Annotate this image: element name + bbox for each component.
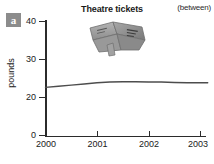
between-annotation: (between) <box>177 3 211 12</box>
y-tick-mark-40 <box>39 21 45 22</box>
chart-figure: a Theatre tickets (between) pounds <box>0 0 214 164</box>
x-tick-mark-2001 <box>97 131 98 137</box>
x-tick-label-2002: 2002 <box>132 139 166 149</box>
y-tick-mark-0 <box>39 135 45 136</box>
x-tick-mark-2000 <box>46 131 47 137</box>
y-tick-mark-20 <box>39 97 45 98</box>
theatre-tickets-clipart <box>87 17 149 59</box>
x-axis-line <box>45 136 206 138</box>
x-tick-mark-2003 <box>200 131 201 137</box>
x-tick-mark-2002 <box>149 131 150 137</box>
x-tick-label-2000: 2000 <box>29 139 63 149</box>
x-tick-label-2003: 2003 <box>181 139 214 149</box>
y-tick-label-40: 40 <box>12 16 36 26</box>
y-axis-line <box>45 20 47 137</box>
y-tick-label-0: 0 <box>12 130 36 140</box>
chart-title: Theatre tickets <box>62 4 162 14</box>
y-tick-mark-30 <box>39 59 45 60</box>
y-tick-label-20: 20 <box>12 92 36 102</box>
x-tick-label-2001: 2001 <box>81 139 115 149</box>
y-tick-label-30: 30 <box>12 54 36 64</box>
